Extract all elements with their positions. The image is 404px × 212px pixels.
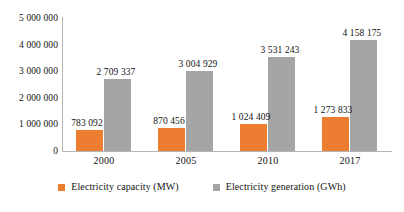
legend-swatch-icon — [58, 184, 65, 191]
bar-capacity — [322, 117, 349, 151]
bar-group: 783 092 2 709 337 — [63, 18, 145, 151]
bar-generation — [268, 57, 295, 151]
chart-legend: Electricity capacity (MW) Electricity ge… — [0, 181, 404, 193]
y-axis-tick-label: 0 — [0, 146, 58, 156]
bar-capacity — [76, 130, 103, 151]
bar-chart-figure: 5 000 000 4 000 000 3 000 000 2 000 000 … — [0, 0, 404, 212]
bar-value-label-capacity: 783 092 — [54, 118, 120, 128]
legend-item-generation: Electricity generation (GWh) — [213, 181, 346, 193]
bar-capacity — [158, 128, 185, 151]
y-axis-tick-label: 2 000 000 — [0, 93, 58, 103]
x-axis-tick-label: 2005 — [145, 155, 227, 167]
bar-group: 1 273 833 4 158 175 — [309, 18, 391, 151]
y-axis-tick-label: 4 000 000 — [0, 40, 58, 50]
y-axis-tick-label: 5 000 000 — [0, 13, 58, 23]
bar-value-label-capacity: 870 456 — [136, 116, 202, 126]
bar-group: 870 456 3 004 929 — [145, 18, 227, 151]
y-axis-tick-label: 1 000 000 — [0, 119, 58, 129]
bar-value-label-capacity: 1 024 409 — [218, 112, 284, 122]
bar-group: 1 024 409 3 531 243 — [227, 18, 309, 151]
plot-area: 783 092 2 709 337 870 456 3 004 929 1 02… — [63, 18, 391, 151]
y-axis-tick-label: 3 000 000 — [0, 66, 58, 76]
legend-label: Electricity generation (GWh) — [226, 181, 346, 193]
bar-capacity — [240, 124, 267, 151]
legend-item-capacity: Electricity capacity (MW) — [58, 181, 178, 193]
bar-value-label-capacity: 1 273 833 — [300, 105, 366, 115]
bar-generation — [104, 79, 131, 151]
x-axis-tick-label: 2010 — [227, 155, 309, 167]
x-axis-line — [62, 151, 392, 152]
bar-generation — [186, 71, 213, 151]
legend-swatch-icon — [213, 184, 220, 191]
x-axis-tick-label: 2000 — [63, 155, 145, 167]
legend-label: Electricity capacity (MW) — [71, 181, 178, 193]
bar-generation — [350, 40, 377, 151]
bar-value-label-generation: 4 158 175 — [319, 28, 404, 38]
x-axis-tick-label: 2017 — [309, 155, 391, 167]
